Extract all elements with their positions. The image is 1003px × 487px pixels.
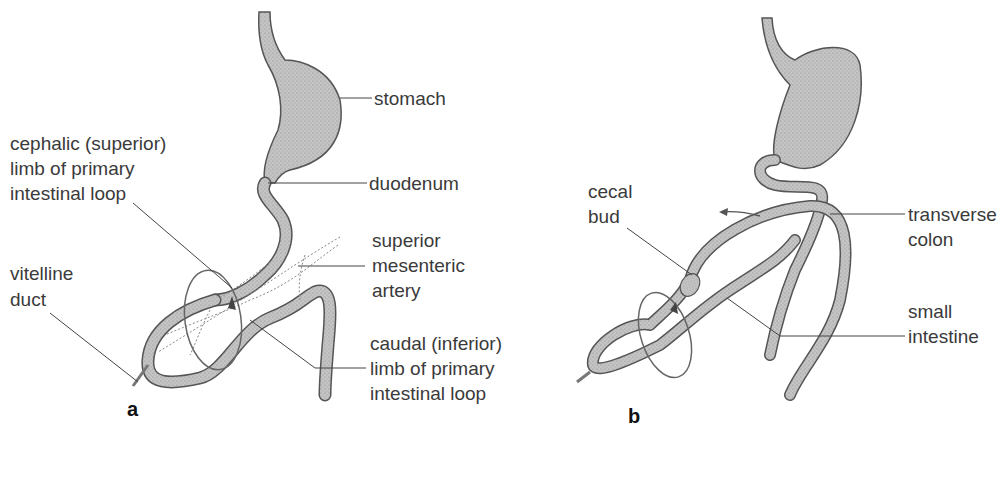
diagram-canvas bbox=[0, 0, 1003, 487]
panel-b-leaders bbox=[627, 214, 905, 336]
label-transverse-line2: colon bbox=[908, 228, 953, 251]
label-small-line2: intestine bbox=[908, 325, 979, 348]
label-vitelline-line1: vitelline bbox=[10, 262, 73, 285]
label-caudal-line1: caudal (inferior) bbox=[370, 332, 502, 355]
label-stomach: stomach bbox=[374, 87, 446, 110]
label-transverse-line1: transverse bbox=[908, 203, 997, 226]
label-small-line1: small bbox=[908, 300, 952, 323]
label-sma-line2: mesenteric bbox=[372, 254, 465, 277]
panel-b-letter: b bbox=[628, 405, 640, 428]
label-sma-line1: superior bbox=[372, 229, 441, 252]
label-cecal-line1: cecal bbox=[588, 180, 632, 203]
panel-a-illustration bbox=[133, 12, 341, 395]
panel-a-letter: a bbox=[127, 398, 138, 421]
label-vitelline-line2: duct bbox=[10, 288, 46, 311]
stomach-b-shape bbox=[762, 18, 861, 169]
rotation-axis-ellipse bbox=[178, 267, 247, 374]
label-cephalic-line1: cephalic (superior) bbox=[10, 132, 166, 155]
label-caudal-line2: limb of primary bbox=[370, 357, 495, 380]
label-cecal-line2: bud bbox=[588, 205, 620, 228]
label-duodenum: duodenum bbox=[369, 172, 459, 195]
label-cephalic-line2: limb of primary bbox=[10, 157, 135, 180]
stomach-shape bbox=[259, 12, 341, 183]
label-caudal-line3: intestinal loop bbox=[370, 382, 486, 405]
label-cephalic-line3: intestinal loop bbox=[10, 182, 126, 205]
label-sma-line3: artery bbox=[372, 279, 421, 302]
